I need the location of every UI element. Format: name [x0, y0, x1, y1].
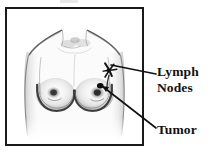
label-lymph-line1: Lymph: [157, 64, 199, 80]
illustration-frame: [5, 7, 144, 146]
scan-artifact: [60, 0, 78, 3]
label-tumor: Tumor: [157, 122, 197, 138]
illustration-canvas: Lymph Nodes Tumor: [0, 0, 212, 157]
tumor-marker: [97, 83, 104, 88]
torso-sketch: [7, 9, 142, 144]
label-tumor-line1: Tumor: [157, 122, 197, 138]
label-lymph-line2: Nodes: [157, 80, 199, 96]
label-lymph-nodes: Lymph Nodes: [157, 64, 199, 95]
